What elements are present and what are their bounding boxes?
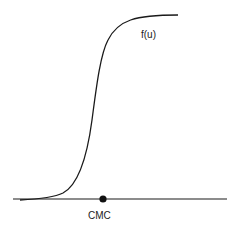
sigmoid-diagram: f(u) CMC	[0, 0, 235, 230]
f-u-curve	[20, 15, 178, 200]
curve-label: f(u)	[141, 29, 156, 40]
cmc-label: CMC	[88, 210, 111, 221]
cmc-point	[99, 195, 106, 202]
